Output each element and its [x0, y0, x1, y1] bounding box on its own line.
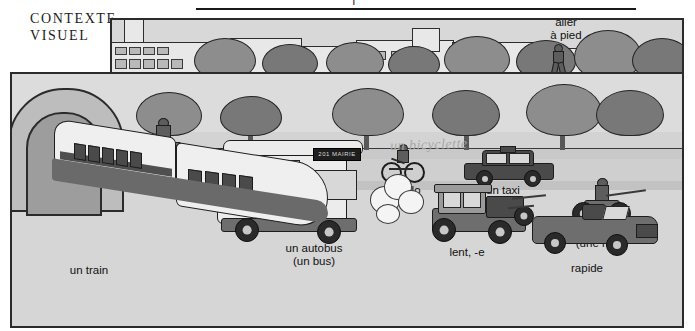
old-car-wheel	[432, 218, 456, 242]
tree-foliage	[596, 90, 664, 136]
train-window	[102, 147, 114, 165]
scene-upper-panel: aller à pied	[110, 18, 684, 76]
tree-foliage	[326, 42, 384, 76]
label-rapide: rapide	[552, 262, 622, 275]
building-window	[115, 47, 127, 55]
building-window	[171, 59, 183, 69]
tree-foliage	[194, 38, 256, 76]
convertible-windshield	[602, 206, 629, 220]
handwritten-annotation-bicyclette: un bicyclette	[390, 136, 468, 155]
exhaust-smoke	[376, 204, 400, 224]
convertible-wheel	[544, 232, 566, 254]
tree-foliage	[632, 38, 684, 76]
tree-foliage	[332, 88, 404, 136]
pedestrian-figure	[550, 44, 566, 74]
tree-foliage	[444, 36, 510, 76]
illustration-frame: une voiture un vélo un bicyclette un tax…	[10, 72, 684, 328]
building-window	[157, 59, 169, 69]
vehicle-old-car-slow	[424, 184, 534, 244]
convertible-wheel	[606, 234, 628, 256]
moped-rider	[592, 178, 610, 202]
bicycle-frame	[389, 168, 413, 170]
building-window	[115, 59, 127, 69]
label-aller-a-pied: aller à pied	[536, 18, 596, 42]
tree-foliage	[526, 84, 602, 136]
tree-foliage	[432, 90, 500, 136]
exhaust-smoke	[398, 190, 424, 214]
old-car-wheel	[488, 220, 512, 244]
tree-foliage	[516, 40, 576, 76]
train-window	[130, 151, 142, 169]
train-window	[116, 149, 128, 167]
building-window	[143, 47, 155, 55]
train-window	[74, 143, 86, 161]
convertible-grille	[636, 224, 658, 238]
vehicle-taxi	[464, 150, 552, 184]
caption-line-1: CONTEXTE	[30, 10, 117, 27]
header-rule	[196, 8, 636, 10]
old-car-window	[443, 192, 461, 208]
caption-line-2: VISUEL	[30, 27, 117, 44]
rider-torso	[595, 185, 609, 201]
building-window	[143, 59, 155, 69]
page-root: l CONTEXTE VISUEL	[0, 0, 695, 331]
vehicle-convertible-fast	[532, 202, 662, 262]
old-car-window	[463, 192, 481, 208]
taxi-window	[509, 153, 530, 164]
train-window	[88, 145, 100, 163]
building-window	[129, 47, 141, 55]
building-window	[157, 47, 169, 55]
section-caption: CONTEXTE VISUEL	[30, 10, 117, 44]
taxi-window	[486, 153, 507, 164]
label-train: un train	[54, 264, 124, 277]
cut-off-header-text: l	[352, 0, 372, 5]
building-window	[129, 59, 141, 69]
label-lent: lent, -e	[432, 246, 502, 259]
old-car-spare	[514, 206, 534, 226]
taxi-roof-sign	[500, 146, 516, 153]
